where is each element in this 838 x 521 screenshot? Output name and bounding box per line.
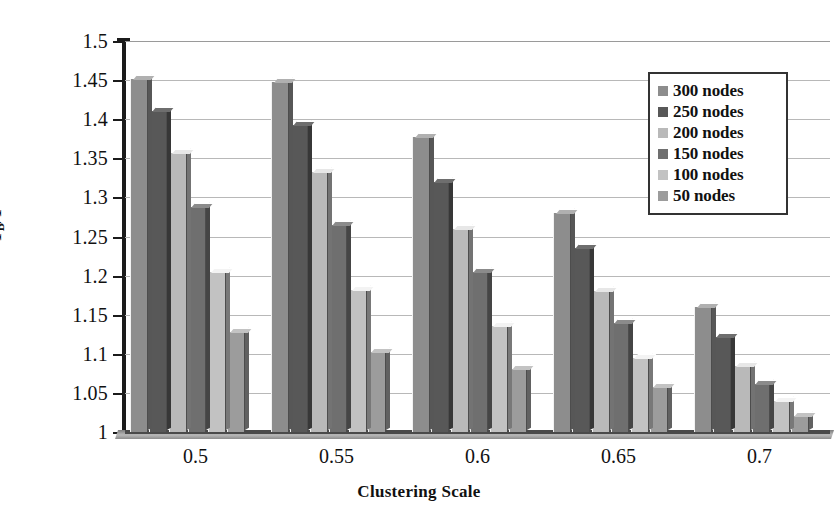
bar	[208, 272, 226, 432]
bar-top	[614, 319, 636, 324]
y-axis-tick-label: 1.1	[0, 342, 108, 365]
legend: 300 nodes250 nodes200 nodes150 nodes100 …	[648, 72, 788, 215]
bar	[169, 153, 187, 432]
bar-face	[772, 401, 790, 432]
bar-face	[694, 307, 712, 432]
bar-side	[187, 149, 191, 430]
bar-top	[653, 383, 675, 388]
bar-top	[332, 221, 354, 226]
bar-top	[794, 412, 816, 417]
bar-top	[473, 268, 495, 273]
legend-item-label: 50 nodes	[673, 186, 735, 206]
bar-side	[629, 318, 633, 430]
y-axis-tick-label: 1.05	[0, 381, 108, 404]
bar	[694, 307, 712, 432]
legend-item[interactable]: 50 nodes	[658, 185, 778, 206]
y-axis-tick-label: 1.45	[0, 69, 108, 92]
bar-side	[449, 177, 453, 430]
bar-face	[733, 366, 751, 432]
gridline	[125, 41, 830, 42]
bar-chart: TB/T 1.51.451.41.351.31.251.21.151.11.05…	[0, 0, 838, 521]
y-axis-tick	[113, 197, 125, 199]
bar-top	[152, 107, 174, 112]
legend-item-label: 200 nodes	[673, 123, 743, 143]
bar-side	[386, 348, 390, 430]
bar	[772, 401, 790, 432]
bar-face	[208, 272, 226, 432]
legend-item[interactable]: 250 nodes	[658, 101, 778, 122]
y-axis-tick-labels: 1.51.451.41.351.31.251.21.151.11.051	[0, 0, 108, 521]
bar-top	[211, 268, 233, 273]
bar-face	[412, 137, 430, 432]
bar	[631, 358, 649, 432]
y-axis-tick	[113, 315, 125, 317]
bar-side	[731, 332, 735, 430]
bar-side	[571, 209, 575, 430]
bar-top	[575, 244, 597, 249]
y-axis-tick-label: 1.5	[0, 30, 108, 53]
bar-top	[716, 333, 738, 338]
bar-side	[712, 303, 716, 430]
bar-face	[490, 326, 508, 432]
bar-face	[592, 291, 610, 432]
bar-side	[347, 220, 351, 430]
bar-top	[512, 365, 534, 370]
bar-face	[130, 79, 148, 432]
gridline	[125, 237, 830, 238]
bar-side	[770, 379, 774, 430]
y-axis-tick	[113, 41, 125, 43]
bar	[553, 213, 571, 432]
bar-side	[610, 287, 614, 430]
bar	[592, 291, 610, 432]
bar-side	[206, 202, 210, 430]
bar-top	[313, 168, 335, 173]
y-axis-tick-label: 1	[0, 421, 108, 444]
bar-top	[352, 286, 374, 291]
bar-side	[668, 382, 672, 430]
y-axis-tick	[113, 119, 125, 121]
y-axis-tick	[113, 354, 125, 356]
x-axis-tick-label: 0.5	[183, 445, 208, 468]
legend-item[interactable]: 300 nodes	[658, 80, 778, 101]
bar-top	[755, 380, 777, 385]
legend-swatch-icon	[658, 107, 668, 117]
bar-side	[289, 77, 293, 430]
y-axis-tick-label: 1.4	[0, 108, 108, 131]
bar-side	[527, 365, 531, 430]
bar-side	[590, 244, 594, 430]
bar	[451, 229, 469, 432]
legend-item[interactable]: 200 nodes	[658, 122, 778, 143]
bar	[490, 326, 508, 432]
y-axis-tick-label: 1.15	[0, 303, 108, 326]
bar-side	[649, 353, 653, 430]
bar-top	[133, 75, 155, 80]
bar-top	[697, 303, 719, 308]
y-axis-tick-label: 1.2	[0, 264, 108, 287]
bar-side	[148, 74, 152, 430]
bar-face	[631, 358, 649, 432]
bar-side	[328, 167, 332, 430]
bar-side	[308, 120, 312, 430]
y-axis-tick	[113, 80, 125, 82]
bar-top	[634, 354, 656, 359]
bar-top	[371, 348, 393, 353]
bar	[310, 172, 328, 432]
y-axis-tick	[113, 237, 125, 239]
bar-side	[367, 285, 371, 430]
legend-item[interactable]: 100 nodes	[658, 164, 778, 185]
bar-side	[430, 133, 434, 430]
x-axis-tick-label: 0.55	[319, 445, 354, 468]
bar-side	[488, 267, 492, 430]
y-axis-tick-label: 1.25	[0, 225, 108, 248]
legend-item-label: 300 nodes	[673, 81, 743, 101]
bar-top	[230, 328, 252, 333]
y-axis-tick	[113, 276, 125, 278]
bar-top	[454, 225, 476, 230]
bar-top	[775, 397, 797, 402]
bar-side	[226, 267, 230, 430]
legend-item-label: 100 nodes	[673, 165, 743, 185]
bar	[271, 82, 289, 432]
bar	[349, 290, 367, 432]
legend-item[interactable]: 150 nodes	[658, 143, 778, 164]
bar-side	[469, 224, 473, 430]
